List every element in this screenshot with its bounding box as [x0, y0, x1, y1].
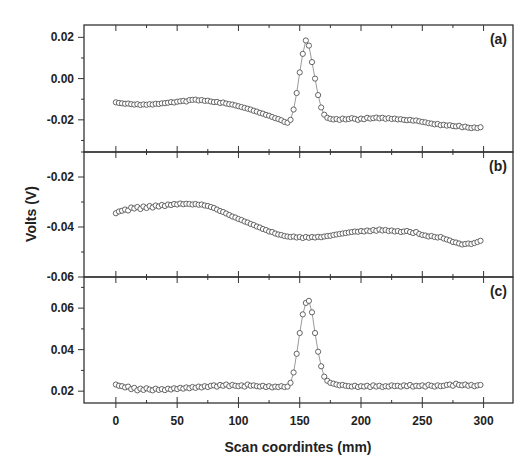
y-tick-label: -0.02 — [47, 170, 75, 184]
data-point — [291, 370, 296, 375]
panel-a: 0.020.00-0.02(a) — [47, 25, 513, 152]
x-tick-label: 300 — [474, 414, 494, 428]
y-tick-label: -0.06 — [47, 270, 75, 284]
data-point — [300, 51, 305, 56]
data-point — [300, 312, 305, 317]
y-tick-label: -0.04 — [47, 220, 75, 234]
data-point — [478, 125, 483, 130]
panel-frame — [84, 25, 513, 152]
panel-frame — [84, 152, 513, 277]
y-tick-label: 0.02 — [51, 384, 75, 398]
x-tick-label: 200 — [351, 414, 371, 428]
x-tick-label: 150 — [290, 414, 310, 428]
data-point — [297, 70, 302, 75]
data-point — [291, 107, 296, 112]
series-markers — [113, 201, 483, 247]
data-point — [478, 238, 483, 243]
y-tick-label: 0.06 — [51, 301, 75, 315]
stacked-line-chart: 0.020.00-0.02(a)-0.02-0.04-0.06(b)050100… — [0, 0, 529, 474]
x-tick-label: 0 — [113, 414, 120, 428]
x-axis-label: Scan coordintes (mm) — [224, 439, 371, 455]
x-tick-label: 50 — [170, 414, 184, 428]
data-point — [294, 90, 299, 95]
data-point — [309, 60, 314, 65]
series-markers — [113, 298, 483, 393]
data-point — [478, 382, 483, 387]
data-point — [303, 38, 308, 43]
y-axis-label: Volts (V) — [23, 186, 39, 242]
series-line — [116, 301, 481, 390]
panel-label: (b) — [489, 158, 507, 174]
data-point — [319, 364, 324, 369]
panels-group: 0.020.00-0.02(a)-0.02-0.04-0.06(b)050100… — [47, 25, 513, 428]
data-point — [312, 76, 317, 81]
data-point — [316, 349, 321, 354]
x-tick-label: 100 — [228, 414, 248, 428]
data-point — [309, 310, 314, 315]
data-point — [312, 330, 317, 335]
y-tick-label: 0.02 — [51, 30, 75, 44]
x-tick-label: 250 — [412, 414, 432, 428]
panel-b: -0.02-0.04-0.06(b) — [47, 152, 513, 284]
y-tick-label: 0.04 — [51, 343, 75, 357]
data-point — [297, 330, 302, 335]
y-tick-label: 0.00 — [51, 72, 75, 86]
panel-label: (c) — [490, 283, 507, 299]
data-point — [316, 92, 321, 97]
data-point — [306, 298, 311, 303]
data-point — [294, 351, 299, 356]
panel-label: (a) — [490, 31, 507, 47]
data-point — [288, 117, 293, 122]
data-point — [288, 380, 293, 385]
data-point — [319, 105, 324, 110]
y-tick-label: -0.02 — [47, 113, 75, 127]
data-point — [306, 43, 311, 48]
series-line — [116, 40, 481, 128]
panel-c: 0501001502002503000.060.040.02(c) — [51, 277, 513, 428]
